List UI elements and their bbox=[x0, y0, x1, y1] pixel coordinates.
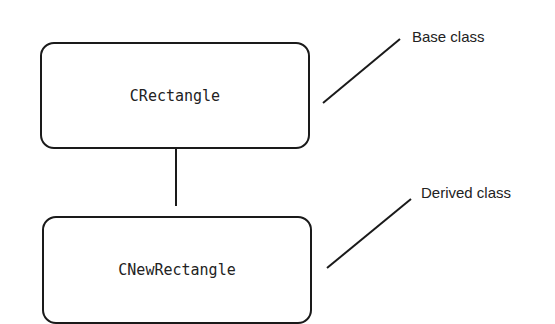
base-annotation-leader bbox=[323, 39, 400, 103]
derived-class-annotation: Derived class bbox=[421, 184, 511, 201]
derived-class-name: CNewRectangle bbox=[118, 261, 235, 279]
derived-class-node: CNewRectangle bbox=[42, 216, 312, 324]
base-class-name: CRectangle bbox=[130, 87, 220, 105]
base-class-annotation: Base class bbox=[412, 28, 485, 45]
base-class-node: CRectangle bbox=[40, 42, 310, 149]
derived-annotation-leader bbox=[327, 199, 411, 268]
